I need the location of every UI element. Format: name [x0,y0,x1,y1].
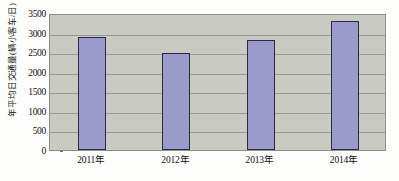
bar-2014年[interactable] [331,21,359,150]
bar-2013年[interactable] [247,40,275,150]
x-tick-label: 2011年 [49,154,133,167]
x-tick-label: 2013年 [218,154,302,167]
y-tick-mark [60,151,63,152]
bars-layer [50,15,385,150]
y-tick-label: 3000 [14,29,46,39]
x-tick-label: 2012年 [133,154,217,167]
bar-slot [50,15,134,150]
bar-2012年[interactable] [162,53,190,150]
bar-slot [303,15,387,150]
bar-slot [134,15,218,150]
bar-slot [219,15,303,150]
bar-chart: 年平均日交通量(辆小客车/日) 350030002500200015001000… [0,0,399,181]
bar-2011年[interactable] [78,37,106,151]
y-tick-label: 0 [14,146,46,156]
y-tick-label: 2500 [14,48,46,58]
y-tick-label: 1000 [14,107,46,117]
x-axis-tick-labels: 2011年2012年2013年2014年 [49,154,386,170]
x-tick-label: 2014年 [302,154,386,167]
plot-area [49,14,386,151]
y-tick-label: 1500 [14,87,46,97]
y-tick-label: 3500 [14,9,46,19]
y-axis-tick-labels: 3500300025002000150010005000 [14,9,46,155]
y-tick-label: 2000 [14,68,46,78]
y-tick-label: 500 [14,126,46,136]
